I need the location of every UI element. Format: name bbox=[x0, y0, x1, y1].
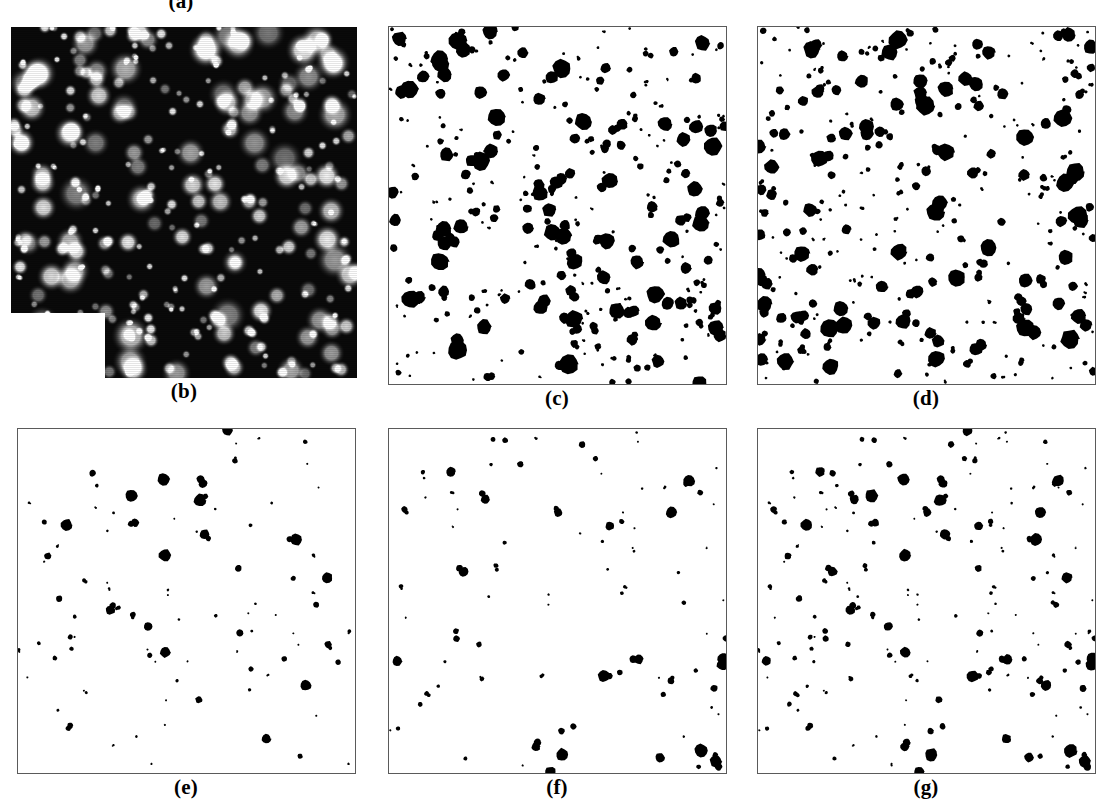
panel-f-segmentation bbox=[388, 428, 727, 774]
panel-g-segmentation bbox=[757, 428, 1096, 774]
panel-e-canvas bbox=[18, 429, 355, 773]
panel-label-a: (a) bbox=[141, 0, 221, 12]
panel-g-canvas bbox=[758, 429, 1095, 773]
figure-root: (a) (b) (c) (d) (e) (f) (g) bbox=[0, 0, 1107, 810]
panel-label-b: (b) bbox=[144, 381, 224, 402]
panel-label-g: (g) bbox=[886, 777, 966, 798]
panel-e-segmentation bbox=[17, 428, 356, 774]
panel-label-c: (c) bbox=[517, 388, 597, 409]
panel-label-f: (f) bbox=[517, 777, 597, 798]
panel-c-canvas bbox=[389, 27, 726, 384]
panel-d-segmentation bbox=[757, 26, 1096, 385]
panel-c-segmentation bbox=[388, 26, 727, 385]
panel-label-e: (e) bbox=[146, 777, 226, 798]
panel-label-d: (d) bbox=[886, 388, 966, 409]
panel-f-canvas bbox=[389, 429, 726, 773]
panel-b-white-notch bbox=[11, 313, 105, 378]
panel-d-canvas bbox=[758, 27, 1095, 384]
panel-b-micrograph bbox=[11, 27, 357, 378]
